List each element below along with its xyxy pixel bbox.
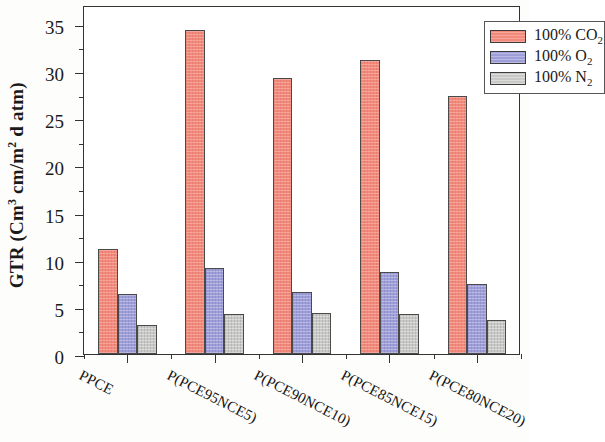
y-tick-minor bbox=[79, 191, 84, 192]
bar-n2-4 bbox=[487, 320, 507, 354]
y-tick-label-30: 30 bbox=[45, 65, 64, 84]
legend-label-n2-text: 100% N bbox=[534, 68, 587, 85]
y-axis-title-prefix: GTR (Cm bbox=[6, 205, 27, 288]
y-axis-title-suffix: d atm) bbox=[6, 82, 27, 141]
y-tick-label-25: 25 bbox=[45, 112, 64, 131]
bar-o2-4 bbox=[467, 284, 487, 354]
legend-label-co2-text: 100% CO bbox=[534, 26, 598, 43]
bar-co2-2 bbox=[273, 78, 293, 354]
y-tick-15: 15 bbox=[75, 215, 84, 216]
legend-label-co2-sub: 2 bbox=[598, 35, 603, 47]
y-tick-minor bbox=[79, 97, 84, 98]
y-tick-minor bbox=[79, 144, 84, 145]
y-tick-minor bbox=[79, 238, 84, 239]
bar-n2-3 bbox=[399, 314, 419, 354]
x-category-label-1: P(PCE95NCE5) bbox=[164, 367, 259, 427]
y-tick-minor bbox=[79, 332, 84, 333]
x-category-label-0: PPCE bbox=[77, 367, 117, 398]
y-tick-10: 10 bbox=[75, 262, 84, 263]
bar-co2-4 bbox=[448, 96, 468, 354]
x-tick-minor bbox=[521, 354, 522, 359]
y-axis-title-middle: cm/m bbox=[6, 148, 27, 199]
y-tick-label-0: 0 bbox=[55, 348, 65, 367]
legend-label-co2: 100% CO2 bbox=[534, 26, 603, 46]
y-axis-title-sup-2: 2 bbox=[6, 141, 19, 147]
plot-area: 05101520253035 100% CO2 100% O2 100% N2 bbox=[83, 6, 520, 355]
bar-co2-0 bbox=[98, 249, 118, 354]
legend-label-o2: 100% O2 bbox=[534, 47, 592, 67]
y-tick-label-35: 35 bbox=[45, 17, 64, 36]
legend-label-n2: 100% N2 bbox=[534, 68, 592, 88]
legend-label-n2-sub: 2 bbox=[587, 77, 592, 89]
bar-co2-3 bbox=[360, 60, 380, 354]
legend-swatch-n2 bbox=[490, 72, 526, 85]
bar-o2-2 bbox=[292, 292, 312, 354]
x-category-label-3: P(PCE85NCE15) bbox=[339, 367, 441, 430]
legend-label-o2-sub: 2 bbox=[587, 56, 592, 68]
bar-n2-0 bbox=[137, 325, 157, 354]
y-tick-label-10: 10 bbox=[45, 253, 64, 272]
y-tick-5: 5 bbox=[75, 309, 84, 310]
y-tick-label-20: 20 bbox=[45, 159, 64, 178]
y-tick-minor bbox=[79, 285, 84, 286]
legend-item-co2: 100% CO2 bbox=[490, 26, 598, 47]
legend-item-n2: 100% N2 bbox=[490, 68, 598, 89]
bar-o2-3 bbox=[380, 272, 400, 354]
y-tick-label-15: 15 bbox=[45, 206, 64, 225]
legend-swatch-co2 bbox=[490, 30, 526, 43]
y-tick-20: 20 bbox=[75, 167, 84, 168]
y-axis-title-sup-1: 3 bbox=[6, 199, 19, 205]
x-category-label-4: P(PCE80NCE20) bbox=[426, 367, 528, 430]
x-category-label-2: P(PCE90NCE10) bbox=[251, 367, 353, 430]
y-tick-minor bbox=[79, 49, 84, 50]
legend-swatch-o2 bbox=[490, 51, 526, 64]
y-tick-25: 25 bbox=[75, 120, 84, 121]
bar-o2-1 bbox=[205, 268, 225, 354]
chart-legend: 100% CO2 100% O2 100% N2 bbox=[484, 21, 605, 94]
y-tick-30: 30 bbox=[75, 73, 84, 74]
bar-o2-0 bbox=[118, 294, 138, 354]
legend-item-o2: 100% O2 bbox=[490, 47, 598, 68]
bar-n2-1 bbox=[224, 314, 244, 354]
y-tick-35: 35 bbox=[75, 26, 84, 27]
legend-label-o2-text: 100% O bbox=[534, 47, 587, 64]
bar-n2-2 bbox=[312, 313, 332, 354]
bar-co2-1 bbox=[185, 30, 205, 354]
x-axis-category-labels: PPCEP(PCE95NCE5)P(PCE90NCE10)P(PCE85NCE1… bbox=[83, 355, 520, 442]
y-axis-title-container: GTR (Cm3 cm/m2 d atm) bbox=[0, 0, 34, 370]
y-axis-title: GTR (Cm3 cm/m2 d atm) bbox=[6, 82, 28, 288]
y-tick-label-5: 5 bbox=[55, 300, 65, 319]
